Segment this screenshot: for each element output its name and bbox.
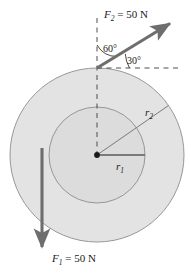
diagram-canvas: F2 = 50 N 60° 30° r2 r1 F1 = 50 N [0,0,191,273]
force-f2-label: F2 = 50 N [103,8,148,23]
force-f2-value: = 50 N [114,8,147,20]
radius-r1-subscript: 1 [120,166,124,175]
radius-r2-subscript: 2 [149,112,153,121]
angle-30-label: 30° [127,55,141,66]
center-point-dot [94,152,100,158]
force-f1-value: = 50 N [62,252,95,264]
angle-60-label: 60° [103,43,117,54]
force-diagram-figure: F2 = 50 N 60° 30° r2 r1 F1 = 50 N [0,0,191,273]
force-f1-label: F1 = 50 N [51,252,96,267]
